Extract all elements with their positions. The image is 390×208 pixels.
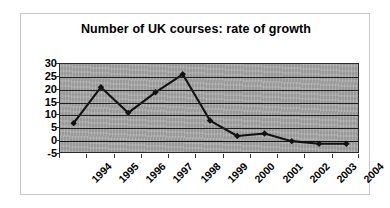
x-axis-tick: [277, 154, 278, 158]
x-axis-tick-label: 1995: [116, 160, 141, 185]
y-axis-tick-label: 20: [23, 84, 57, 95]
x-axis-tick: [141, 154, 142, 158]
series-line: [74, 74, 347, 143]
gridline: [60, 128, 358, 129]
y-axis-tick-label: 0: [23, 135, 57, 146]
x-axis-tick-label: 1994: [88, 160, 113, 185]
x-axis-tick: [114, 154, 115, 158]
x-axis-tick-label: 2001: [279, 160, 304, 185]
gridline: [60, 115, 358, 116]
data-point-marker: [261, 130, 267, 136]
x-axis-tick-label: 2000: [252, 160, 277, 185]
x-axis-tick: [168, 154, 169, 158]
x-axis-tick: [59, 154, 60, 158]
chart-title: Number of UK courses: rate of growth: [21, 22, 371, 36]
gridline: [60, 77, 358, 78]
x-axis-tick: [86, 154, 87, 158]
x-axis-tick: [332, 154, 333, 158]
y-axis-tick-label: 10: [23, 109, 57, 120]
y-axis-tick-label: 25: [23, 71, 57, 82]
gridline: [60, 103, 358, 104]
x-axis-tick: [223, 154, 224, 158]
y-axis-tick-label: 15: [23, 97, 57, 108]
gridline: [60, 90, 358, 91]
y-axis-tick-label: -5: [23, 148, 57, 159]
series-markers: [70, 71, 349, 147]
x-axis-tick-label: 1999: [225, 160, 250, 185]
x-axis-tick-label: 2003: [334, 160, 359, 185]
x-axis-tick-label: 1998: [198, 160, 223, 185]
x-axis-tick-label: 1996: [143, 160, 168, 185]
y-axis-tick-label: 30: [23, 58, 57, 69]
x-axis: 1994199519961997199819992000200120022003…: [59, 154, 359, 198]
x-axis-tick-label: 2004: [361, 160, 386, 185]
plot-area: [59, 63, 359, 153]
x-axis-tick: [304, 154, 305, 158]
x-axis-tick: [358, 154, 359, 158]
x-axis-tick: [250, 154, 251, 158]
y-axis-tick-label: 5: [23, 122, 57, 133]
x-axis-tick-label: 2002: [307, 160, 332, 185]
zero-axis-line: [60, 141, 358, 142]
x-axis-tick: [195, 154, 196, 158]
y-axis: 302520151050-5: [21, 63, 57, 153]
chart-frame: Number of UK courses: rate of growth 302…: [20, 13, 370, 195]
x-axis-tick-label: 1997: [170, 160, 195, 185]
